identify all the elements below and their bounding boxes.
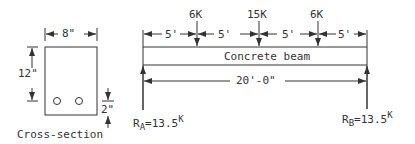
cross-section-rect	[45, 47, 97, 115]
cross-section-caption: Cross-section	[17, 129, 103, 141]
reaction-b-label: RB=13.5K	[342, 109, 393, 129]
rebar-2	[76, 98, 83, 105]
load-label-1: 6K	[189, 9, 202, 21]
height-label: 12"	[18, 68, 38, 80]
reaction-a-label: RA=13.5K	[133, 113, 184, 133]
load-label-3: 6K	[310, 9, 323, 21]
span-label: 20'-0"	[236, 75, 276, 87]
width-label: 8"	[62, 28, 75, 40]
segment-label-3: 5'	[282, 29, 295, 41]
load-label-2: 15K	[247, 9, 267, 21]
segment-label-2: 5'	[218, 29, 231, 41]
cover-label: 2"	[101, 104, 114, 116]
rebar-1	[54, 98, 61, 105]
segment-label-1: 5'	[165, 29, 178, 41]
segment-label-4: 5'	[338, 29, 351, 41]
beam-label: Concrete beam	[224, 51, 310, 63]
